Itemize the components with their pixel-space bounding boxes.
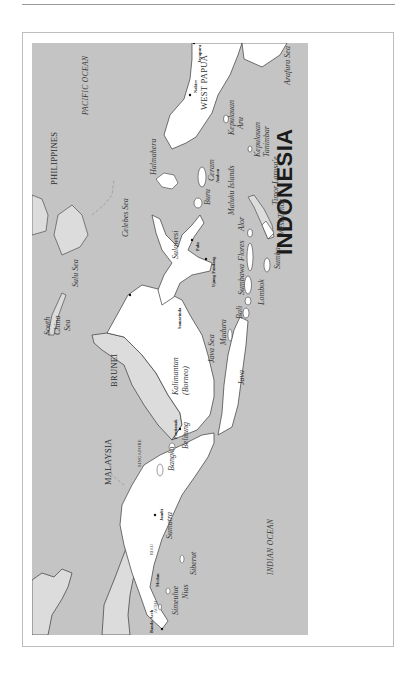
nias [166, 588, 170, 594]
city-nabire: Nabire [194, 80, 199, 93]
label-flores: Flores [238, 240, 246, 261]
label-brunei: BRUNEI [110, 354, 119, 387]
label-sumba: Sumba [274, 247, 282, 269]
label-alor: Alor [238, 217, 246, 231]
label-halmahera: Halmahera [150, 139, 158, 175]
label-arafura-sea: Arafura Sea [284, 46, 292, 85]
city-ujung-pandang: Ujung Pandang [212, 257, 217, 287]
alor [248, 229, 253, 237]
label-borneo: (Borneo) [182, 366, 190, 395]
label-kepulauan-aru-2: Aru [237, 117, 245, 129]
label-pacific-ocean: PACIFIC OCEAN [82, 56, 90, 115]
label-madura: Madura [220, 319, 228, 345]
label-sulu-sea: Sulu Sea [72, 259, 80, 287]
label-west-timor: West Timor [278, 199, 286, 235]
label-maluku-islands: Maluku Islands [228, 165, 236, 215]
simeulue [159, 604, 162, 610]
label-buru: Buru [204, 189, 212, 205]
sumba [264, 258, 270, 272]
bangka [157, 464, 163, 476]
flores [247, 243, 253, 271]
label-indian-ocean: INDIAN OCEAN [267, 519, 275, 575]
label-java: Java [238, 370, 246, 385]
city-medan: Medan [156, 574, 161, 588]
city-pontianak: Pontianak [174, 419, 179, 439]
label-kalimantan: Kalimantan [172, 357, 180, 395]
label-kepulauan-tanimbar-2: Tanimbar [263, 126, 271, 157]
siberut [180, 555, 184, 563]
city-ambon: Ambon [216, 169, 221, 183]
indonesia-map: INDONESIA MALAYSIA BRUNEI PHILIPPINES SI… [32, 43, 308, 635]
label-south-china-sea-3: Sea [64, 319, 72, 331]
city-banda-aceh: Banda Aceh [150, 610, 155, 633]
region-riau: RIAU [150, 544, 155, 555]
label-bali: Bali [236, 306, 244, 319]
label-sumbawa: Sumbawa [238, 264, 246, 295]
label-bangka: Bangka [168, 447, 176, 471]
label-timor-larosae: Timor Larosa'e [272, 156, 280, 205]
label-kepulauan-aru-1: Kepulauan [228, 100, 236, 135]
label-lombok: Lombok [258, 279, 266, 305]
map-rotated-canvas: INDONESIA MALAYSIA BRUNEI PHILIPPINES SI… [32, 43, 308, 635]
label-malaysia: MALAYSIA [104, 439, 113, 485]
label-simeulue: Simeulue [172, 586, 180, 615]
city-jambi: Jambi [160, 509, 165, 521]
label-siberut: Siberut [190, 552, 198, 575]
buru [194, 198, 202, 208]
header-rule [22, 4, 395, 5]
label-celebes-sea: Celebes Sea [122, 198, 130, 237]
label-belitung: Belitung [182, 422, 190, 449]
label-sulawesi: Sulawesi [172, 231, 180, 259]
label-java-sea: Java Sea [208, 334, 216, 363]
city-jayapura: Jayapura [198, 45, 203, 63]
ceram [198, 167, 206, 187]
city-palu: Palu [196, 242, 201, 251]
label-nias: Nias [182, 584, 190, 599]
city-samarinda: Samarinda [178, 308, 183, 329]
label-west-papua: WEST PAPUA [200, 55, 209, 110]
label-sumatra: Sumatra [166, 512, 174, 539]
madura [228, 329, 232, 341]
tanimbar [248, 146, 252, 152]
region-aceh: ACEH [154, 601, 159, 613]
label-south-china-sea-1: South [44, 317, 52, 335]
label-south-china-sea-2: China [54, 315, 62, 335]
label-singapore: SINGAPORE [138, 439, 143, 467]
label-kepulauan-tanimbar-1: Kepulauan [254, 122, 262, 157]
label-philippines: PHILIPPINES [50, 132, 59, 185]
lombok [245, 297, 251, 305]
